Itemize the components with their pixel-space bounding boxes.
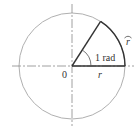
radius-label: r [98,69,102,80]
angle-marker-arc [82,50,91,66]
angle-label: 1 rad [95,52,115,63]
origin-label: 0 [62,69,67,80]
radian-diagram: 0 r 1 rad r [0,0,139,132]
arc-length-label: r [126,36,130,47]
